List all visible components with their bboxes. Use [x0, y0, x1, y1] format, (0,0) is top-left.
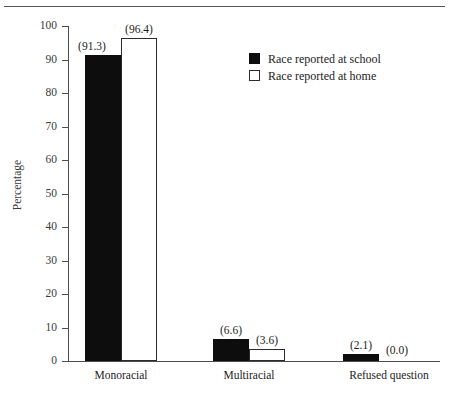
- y-tick-label-80: 80: [17, 87, 57, 99]
- y-tick-70: [62, 127, 68, 128]
- y-tick-30: [62, 261, 68, 262]
- y-tick-0: [62, 361, 68, 362]
- y-tick-60: [62, 160, 68, 161]
- top-divider-rule: [4, 6, 445, 7]
- y-axis-title: Percentage: [11, 140, 23, 230]
- y-tick-50: [62, 194, 68, 195]
- bar-label-refused-home: (0.0): [368, 345, 426, 357]
- bar-monoracial-school: [85, 55, 121, 361]
- y-tick-100: [62, 26, 68, 27]
- bar-label-multiracial-home: (3.6): [238, 335, 296, 347]
- y-tick-label-20: 20: [17, 288, 57, 300]
- y-tick-10: [62, 328, 68, 329]
- legend-swatch-white-square-icon: [249, 70, 260, 81]
- y-axis-line: [68, 26, 69, 362]
- y-tick-90: [62, 60, 68, 61]
- bar-multiracial-home: [249, 349, 285, 361]
- y-tick-label-70: 70: [17, 121, 57, 133]
- y-tick-label-0: 0: [17, 355, 57, 367]
- bar-label-monoracial-home: (96.4): [110, 24, 168, 36]
- y-tick-80: [62, 93, 68, 94]
- x-category-label-refused-question: Refused question: [334, 370, 444, 382]
- x-axis-line: [68, 361, 440, 362]
- y-tick-label-90: 90: [17, 54, 57, 66]
- y-tick-label-50: 50: [17, 188, 57, 200]
- y-tick-label-10: 10: [17, 322, 57, 334]
- y-tick-40: [62, 227, 68, 228]
- y-tick-label-60: 60: [17, 154, 57, 166]
- legend-label-home: Race reported at home: [268, 70, 376, 82]
- bar-chart-figure: 100 90 80 70 60 50 40 30 20 10 0 Percent…: [0, 0, 449, 401]
- bar-label-monoracial-school: (91.3): [63, 41, 121, 53]
- legend-item-school: Race reported at school: [249, 50, 381, 67]
- legend-label-school: Race reported at school: [268, 53, 381, 65]
- x-category-label-monoracial: Monoracial: [76, 370, 166, 382]
- y-tick-label-100: 100: [17, 20, 57, 32]
- y-tick-label-30: 30: [17, 255, 57, 267]
- legend-item-home: Race reported at home: [249, 67, 381, 84]
- y-tick-label-40: 40: [17, 221, 57, 233]
- legend-swatch-black-square-icon: [249, 53, 260, 64]
- x-category-label-multiracial: Multiracial: [204, 370, 294, 382]
- y-tick-20: [62, 294, 68, 295]
- bar-monoracial-home: [121, 38, 157, 361]
- legend: Race reported at school Race reported at…: [249, 50, 381, 84]
